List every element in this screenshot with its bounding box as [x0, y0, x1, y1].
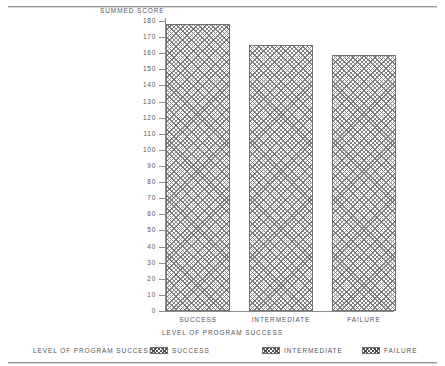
y-axis-tick-label: 100	[112, 146, 156, 153]
y-axis-tick	[159, 166, 166, 167]
y-axis-tick	[159, 263, 166, 264]
y-axis-tick	[159, 230, 166, 231]
y-axis-tick-label: 150	[112, 65, 156, 72]
y-axis-tick-label: 90	[112, 162, 156, 169]
y-axis-tick-label: 20	[112, 275, 156, 282]
y-axis-tick	[159, 102, 166, 103]
y-axis-tick	[159, 85, 166, 86]
y-axis-tick-label: 160	[112, 49, 156, 56]
bar-chart: SUMMED SCORE 180170160150140130120110100…	[0, 0, 445, 340]
y-axis-tick-label: 110	[112, 130, 156, 137]
y-axis-tick	[159, 53, 166, 54]
y-axis-tick-label: 50	[112, 226, 156, 233]
legend-item-failure[interactable]: FAILURE	[362, 347, 417, 354]
bar[interactable]	[249, 45, 313, 311]
legend-item-success[interactable]: SUCCESS	[150, 347, 210, 354]
y-axis-tick	[159, 198, 166, 199]
y-axis-tick	[159, 311, 166, 312]
legend-item-label: FAILURE	[384, 347, 417, 354]
y-axis-tick-label: 30	[112, 259, 156, 266]
y-axis-tick	[159, 295, 166, 296]
bar[interactable]	[332, 55, 396, 311]
y-axis-tick	[159, 37, 166, 38]
y-axis-tick	[159, 279, 166, 280]
y-axis-tick	[159, 247, 166, 248]
y-axis-tick-label: 170	[112, 33, 156, 40]
y-axis-tick-label: 180	[112, 17, 156, 24]
y-axis-tick	[159, 214, 166, 215]
bottom-divider	[8, 362, 437, 364]
legend-swatch-icon	[362, 347, 380, 354]
y-axis-tick-label: 80	[112, 178, 156, 185]
y-axis-title: SUMMED SCORE	[100, 7, 165, 14]
x-axis-label-intermediate: INTERMEDIATE	[235, 316, 327, 323]
bar[interactable]	[166, 24, 230, 311]
y-axis-tick	[159, 118, 166, 119]
legend-item-label: INTERMEDIATE	[284, 347, 343, 354]
y-axis-tick-label: 130	[112, 98, 156, 105]
x-axis-label-success: SUCCESS	[152, 316, 244, 323]
x-axis-label-failure: FAILURE	[318, 316, 410, 323]
y-axis-tick-label: 70	[112, 194, 156, 201]
legend-title: LEVEL OF PROGRAM SUCCESS	[33, 347, 154, 354]
y-axis-tick-label: 120	[112, 114, 156, 121]
y-axis-tick-label: 0	[112, 307, 156, 314]
legend-swatch-icon	[262, 347, 280, 354]
y-axis-tick	[159, 21, 166, 22]
chart-legend: LEVEL OF PROGRAM SUCCESS SUCCESSINTERMED…	[0, 345, 445, 359]
legend-swatch-icon	[150, 347, 168, 354]
x-axis-title: LEVEL OF PROGRAM SUCCESS	[0, 329, 445, 336]
x-axis-line	[165, 311, 394, 312]
y-axis-tick-label: 60	[112, 210, 156, 217]
y-axis-tick-label: 40	[112, 243, 156, 250]
y-axis-tick	[159, 150, 166, 151]
y-axis-tick-label: 10	[112, 291, 156, 298]
y-axis-tick	[159, 134, 166, 135]
y-axis-tick	[159, 182, 166, 183]
y-axis-tick	[159, 69, 166, 70]
y-axis-tick-label: 140	[112, 81, 156, 88]
legend-item-intermediate[interactable]: INTERMEDIATE	[262, 347, 343, 354]
legend-item-label: SUCCESS	[172, 347, 210, 354]
